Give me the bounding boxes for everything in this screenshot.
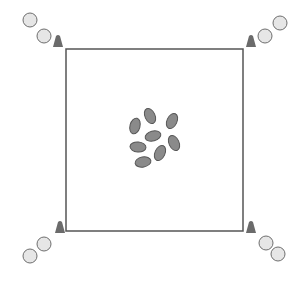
ball-icon [259, 236, 273, 250]
ball-icon [23, 249, 37, 263]
ball-icon [37, 237, 51, 251]
ball-icon [258, 29, 272, 43]
ball-icon [23, 13, 37, 27]
field-diagram [0, 0, 302, 283]
ball-icon [273, 16, 287, 30]
ball-icon [37, 29, 51, 43]
ball-icon [271, 247, 285, 261]
